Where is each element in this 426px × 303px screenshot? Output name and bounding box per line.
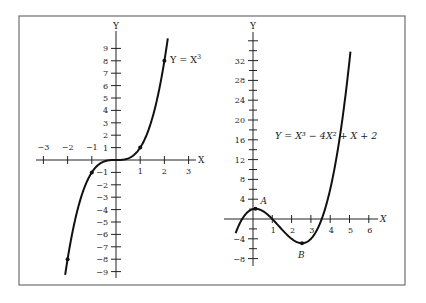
y-tick-label: 5: [103, 94, 108, 103]
y-tick-label: 28: [235, 76, 245, 85]
y-axis-label: Y: [112, 21, 120, 31]
x-axis-label: X: [379, 214, 387, 224]
right-axes: [224, 32, 378, 266]
y-tick-label: −7: [96, 243, 108, 252]
x-axis-label: X: [198, 155, 205, 165]
marked-point: [66, 257, 70, 261]
marked-point: [162, 59, 166, 63]
y-tick-label: 32: [235, 57, 245, 66]
y-tick-label: 4: [103, 106, 108, 115]
point-label-a: A: [260, 196, 268, 206]
equation-label: Y = X3: [169, 53, 201, 65]
x-tick-label: −1: [86, 143, 98, 152]
x-tick-label: 1: [271, 226, 276, 235]
y-tick-label: −2: [96, 181, 108, 190]
y-tick-label: 12: [235, 156, 245, 165]
equation-base: Y = X: [169, 54, 197, 65]
x-tick-label: 2: [162, 167, 167, 176]
y-axis-label: Y: [249, 21, 257, 31]
x-tick-label: −3: [38, 143, 50, 152]
extremum-point-a: [254, 207, 258, 211]
y-tick-label: 1: [103, 144, 108, 153]
y-tick-label: −5: [96, 218, 108, 227]
x-tick-label: −2: [62, 143, 74, 152]
extremum-point-b: [300, 241, 304, 245]
y-tick-label: −8: [233, 255, 245, 264]
y-tick-label: 7: [103, 69, 108, 78]
x-tick-label: 3: [186, 167, 191, 176]
y-tick-label: −9: [96, 268, 108, 277]
y-tick-label: 8: [240, 175, 245, 184]
y-tick-label: −4: [96, 206, 108, 215]
y-tick-label: 6: [103, 82, 108, 91]
marked-point: [90, 170, 94, 174]
chart-y-equals-x-cubed: −3−2−1123987654321−1−2−3−4−5−6−7−8−9 X Y…: [36, 21, 205, 278]
y-tick-label: 3: [103, 119, 108, 128]
x-tick-label: 4: [329, 226, 334, 235]
y-tick-label: 24: [235, 96, 245, 105]
y-tick-label: 16: [235, 136, 245, 145]
y-tick-label: 9: [103, 44, 108, 53]
y-tick-label: 2: [103, 131, 108, 140]
y-tick-label: 8: [103, 57, 108, 66]
marked-point: [138, 146, 142, 150]
y-tick-label: −4: [233, 235, 245, 244]
x-tick-label: 2: [290, 226, 295, 235]
x-tick-label: 1: [138, 167, 143, 176]
y-tick-label: 4: [240, 195, 245, 204]
chart-cubic-polynomial: 12345632282420161284−4−8 AB X Y Y = X³ −…: [224, 21, 387, 266]
y-tick-label: 20: [235, 116, 245, 125]
left-axes: [36, 31, 196, 278]
point-label-b: B: [297, 250, 305, 260]
y-tick-label: −8: [96, 255, 108, 264]
y-tick-label: −3: [96, 193, 108, 202]
cubic-function-figure: −3−2−1123987654321−1−2−3−4−5−6−7−8−9 X Y…: [0, 0, 426, 303]
y-tick-label: −1: [96, 168, 108, 177]
x-tick-label: 6: [367, 226, 372, 235]
x-tick-label: 5: [348, 226, 353, 235]
figure-frame: [19, 16, 405, 285]
equation-exponent: 3: [197, 53, 201, 61]
equation-label: Y = X³ − 4X² + X + 2: [275, 130, 377, 141]
y-tick-label: −6: [96, 230, 108, 239]
